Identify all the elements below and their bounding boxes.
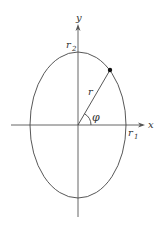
point-on-ellipse [108, 68, 112, 72]
r1-subscript: 1 [134, 133, 138, 141]
ellipse-polar-diagram: y x r 2 r 1 r φ [0, 0, 165, 226]
angle-arc [85, 114, 92, 125]
x-axis-label: x [148, 119, 154, 130]
diagram-canvas: y x r 2 r 1 r φ [0, 0, 165, 226]
radius-label: r [88, 86, 94, 97]
r2-subscript: 2 [71, 45, 77, 53]
y-axis-label: y [75, 12, 82, 23]
angle-phi-label: φ [92, 111, 100, 124]
